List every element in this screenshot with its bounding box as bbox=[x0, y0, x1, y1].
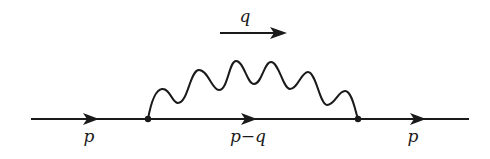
feynman-diagram: q p p−q p bbox=[0, 0, 490, 159]
photon-wavy-line bbox=[148, 61, 358, 119]
label-outgoing-momentum: p bbox=[408, 126, 419, 146]
label-photon-momentum: q bbox=[240, 6, 251, 26]
label-internal-momentum: p−q bbox=[230, 126, 266, 146]
vertex-right bbox=[355, 116, 361, 122]
diagram-svg: q p p−q p bbox=[0, 0, 490, 159]
vertex-left bbox=[145, 116, 151, 122]
label-incoming-momentum: p bbox=[84, 126, 95, 146]
